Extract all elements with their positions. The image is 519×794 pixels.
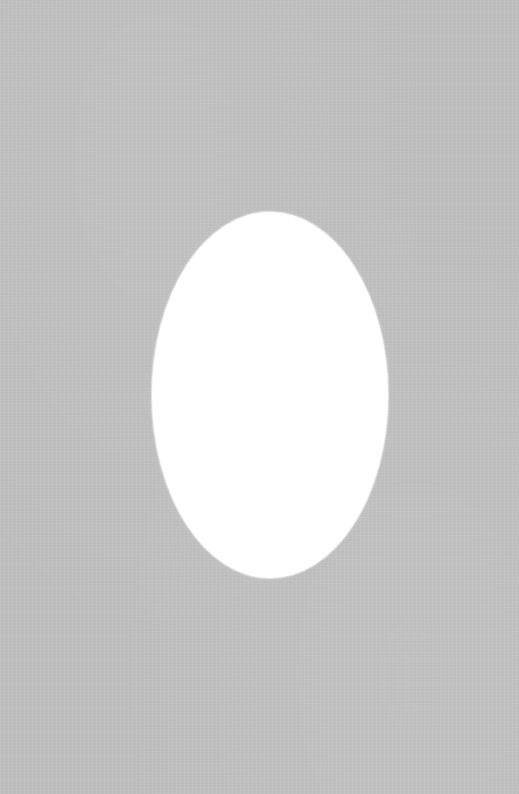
grey-mat-board bbox=[0, 0, 519, 794]
oval-opening bbox=[152, 212, 388, 578]
